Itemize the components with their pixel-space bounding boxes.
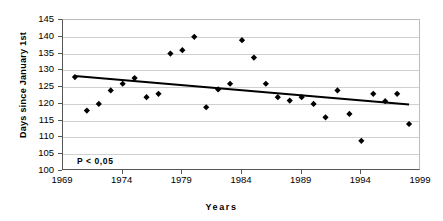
x-axis-tick-label: 1984 (230, 174, 251, 185)
x-axis-tick-mark (301, 170, 302, 174)
data-point (96, 101, 102, 107)
data-point (84, 108, 90, 114)
x-axis-tick-label: 1974 (111, 174, 132, 185)
data-point (346, 111, 352, 117)
y-axis-tick-label: 110 (28, 130, 54, 141)
x-axis-tick-label: 1999 (409, 174, 430, 185)
data-point (394, 91, 400, 97)
y-axis-tick-label: 135 (28, 47, 54, 58)
data-point (334, 87, 340, 93)
data-point (311, 101, 317, 107)
data-point (287, 97, 293, 103)
x-axis-tick-label: 1969 (51, 174, 72, 185)
x-axis-tick-label: 1994 (350, 174, 371, 185)
y-axis-tick-label: 125 (28, 80, 54, 91)
x-axis-tick-mark (241, 170, 242, 174)
y-axis-tick-label: 140 (28, 30, 54, 41)
data-point (275, 94, 281, 100)
data-point (191, 34, 197, 40)
data-point (370, 91, 376, 97)
trend-line (75, 76, 409, 105)
y-axis-tick-label: 105 (28, 147, 54, 158)
data-point (263, 81, 269, 87)
data-point (227, 81, 233, 87)
y-axis-tick-label: 130 (28, 63, 54, 74)
data-point (406, 121, 412, 127)
data-point (203, 104, 209, 110)
data-point (358, 138, 364, 144)
data-point (120, 81, 126, 87)
y-axis-tick-label: 115 (28, 114, 54, 125)
x-axis-title: Years (0, 202, 443, 212)
data-point (179, 47, 185, 53)
x-axis-tick-label: 1989 (290, 174, 311, 185)
y-axis-tick-mark (58, 170, 62, 171)
data-layer (63, 20, 421, 171)
p-value-annotation: P < 0,05 (77, 156, 114, 166)
data-point (239, 37, 245, 43)
x-axis-tick-label: 1979 (171, 174, 192, 185)
data-point (251, 54, 257, 60)
x-axis-tick-mark (181, 170, 182, 174)
data-point (155, 91, 161, 97)
y-axis-tick-label: 100 (28, 164, 54, 175)
y-axis-title: Days since January 1st (18, 0, 28, 170)
data-point (167, 50, 173, 56)
plot-area: P < 0,05 (62, 19, 420, 170)
y-axis-tick-label: 145 (28, 13, 54, 24)
data-point (322, 114, 328, 120)
y-axis-tick-label: 120 (28, 97, 54, 108)
data-point (143, 94, 149, 100)
x-axis-tick-mark (122, 170, 123, 174)
x-axis-tick-mark (360, 170, 361, 174)
chart-figure: Days since January 1st 10010511011512012… (0, 0, 443, 221)
data-point (108, 87, 114, 93)
data-point (72, 74, 78, 80)
